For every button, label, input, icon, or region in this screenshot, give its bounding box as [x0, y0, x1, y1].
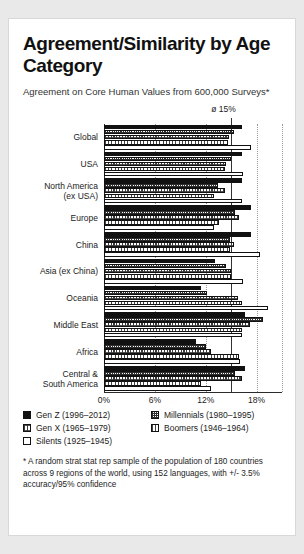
- bar: [104, 333, 242, 338]
- bar-group: Global: [104, 124, 266, 151]
- category-label: Middle East: [8, 320, 98, 330]
- bar: [104, 162, 226, 167]
- bar: [104, 220, 219, 225]
- bar-group: Asia (ex China): [104, 258, 266, 285]
- bar: [104, 183, 218, 188]
- bar: [104, 252, 260, 257]
- bar: [104, 210, 235, 215]
- bar: [104, 130, 234, 135]
- x-tick-label: 12%: [197, 395, 214, 405]
- bar: [104, 366, 245, 371]
- bar: [104, 140, 228, 145]
- x-axis-line: [104, 392, 282, 393]
- bar: [104, 225, 214, 230]
- category-label: North America (ex USA): [8, 181, 98, 201]
- bar: [104, 145, 251, 150]
- x-tick-label: 0%: [98, 395, 110, 405]
- legend-item-boomers[interactable]: Boomers (1946–1964): [151, 423, 281, 433]
- bar: [104, 381, 201, 386]
- bar: [104, 376, 242, 381]
- bar: [104, 194, 214, 199]
- category-label: Oceania: [8, 293, 98, 303]
- legend-swatch-icon: [23, 424, 31, 432]
- bar-group: USA: [104, 151, 266, 178]
- bar: [104, 279, 243, 284]
- bar-group: Africa: [104, 338, 266, 365]
- legend-swatch-icon: [151, 411, 159, 419]
- legend-label: Silents (1925–1945): [36, 436, 112, 446]
- bar: [104, 317, 263, 322]
- bar: [104, 371, 235, 376]
- category-label: USA: [8, 159, 98, 169]
- bar: [104, 301, 242, 306]
- bar: [104, 339, 196, 344]
- bar: [104, 349, 211, 354]
- bar-group: Europe: [104, 204, 266, 231]
- legend-swatch-icon: [23, 437, 31, 445]
- legend-label: Boomers (1946–1964): [164, 423, 249, 433]
- bar: [104, 242, 234, 247]
- legend-item-silents[interactable]: Silents (1925–1945): [23, 436, 151, 446]
- legend-swatch-icon: [151, 424, 159, 432]
- category-label: Europe: [8, 213, 98, 223]
- category-label: Asia (ex China): [8, 266, 98, 276]
- chart-legend: Gen Z (1996–2012)Millennials (1980–1995)…: [9, 410, 295, 446]
- chart-subtitle: Agreement on Core Human Values from 600,…: [23, 85, 281, 98]
- bar: [104, 178, 242, 183]
- category-label: Central & South America: [8, 369, 98, 389]
- category-label: Global: [8, 132, 98, 142]
- bar: [104, 328, 242, 333]
- legend-swatch-icon: [23, 411, 31, 419]
- bar: [104, 386, 211, 391]
- bar: [104, 264, 226, 269]
- bar: [104, 274, 231, 279]
- bar: [104, 232, 251, 237]
- x-tick-label: 18%: [248, 395, 265, 405]
- bar: [104, 157, 231, 162]
- legend-label: Gen X (1965–1979): [36, 423, 111, 433]
- bar-groups: GlobalUSANorth America (ex USA)EuropeChi…: [104, 124, 266, 392]
- chart-plot-area: 0%6%12%18% ø 15% GlobalUSANorth America …: [9, 104, 297, 404]
- average-line-label: ø 15%: [211, 104, 236, 114]
- bar-group: North America (ex USA): [104, 178, 266, 205]
- legend-label: Gen Z (1996–2012): [36, 410, 110, 420]
- bar-group: Central & South America: [104, 365, 266, 392]
- bar: [104, 152, 242, 157]
- bar: [104, 215, 239, 220]
- bar: [104, 247, 230, 252]
- bar: [104, 312, 245, 317]
- bar: [104, 259, 215, 264]
- legend-item-gen-z[interactable]: Gen Z (1996–2012): [23, 410, 151, 420]
- page-title: Agreement/Similarity by Age Category: [23, 33, 281, 77]
- bar: [104, 354, 239, 359]
- bar: [104, 322, 250, 327]
- bar: [104, 296, 238, 301]
- bar: [104, 188, 225, 193]
- card-header: Agreement/Similarity by Age Category Agr…: [9, 19, 295, 98]
- bar: [104, 286, 201, 291]
- category-label: China: [8, 240, 98, 250]
- gridline-right: [282, 124, 283, 392]
- bar: [104, 199, 242, 204]
- bar: [104, 167, 225, 172]
- bar: [104, 269, 231, 274]
- bar: [104, 135, 229, 140]
- legend-item-gen-x[interactable]: Gen X (1965–1979): [23, 423, 151, 433]
- legend-label: Millennials (1980–1995): [164, 410, 254, 420]
- bar-group: China: [104, 231, 266, 258]
- bar: [104, 359, 240, 364]
- chart-card: Agreement/Similarity by Age Category Agr…: [8, 18, 296, 536]
- legend-item-millennials[interactable]: Millennials (1980–1995): [151, 410, 281, 420]
- bar-group: Middle East: [104, 312, 266, 339]
- bar-group: Oceania: [104, 285, 266, 312]
- x-tick-label: 6%: [149, 395, 161, 405]
- bar: [104, 306, 268, 311]
- category-label: Africa: [8, 347, 98, 357]
- bar: [104, 172, 243, 177]
- bar: [104, 237, 230, 242]
- chart-footnote: * A random strat stat rep sample of the …: [9, 456, 295, 491]
- bar: [104, 291, 207, 296]
- bar: [104, 125, 242, 130]
- bar: [104, 344, 206, 349]
- bar: [104, 205, 251, 210]
